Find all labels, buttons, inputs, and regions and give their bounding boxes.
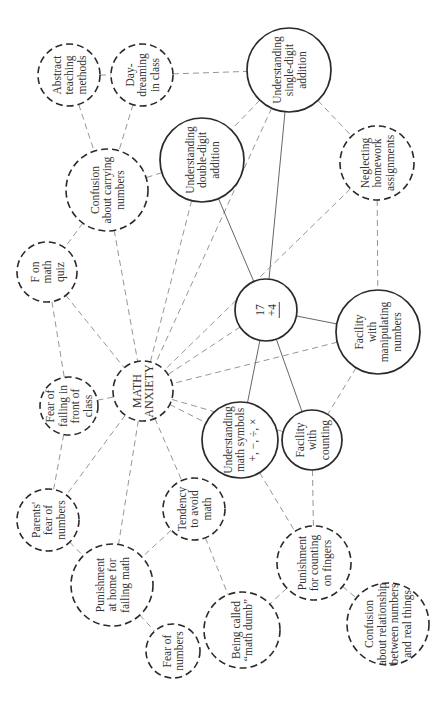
- edge-double-carrying: [146, 173, 162, 178]
- edge-failclass-anxiety: [97, 397, 113, 400]
- node-label-line: front of: [69, 388, 81, 423]
- node-label-fearnum: Fear ofnumbers: [161, 631, 186, 671]
- edge-punishfingers-realthings: [343, 587, 357, 598]
- node-label-line: addition: [296, 51, 308, 89]
- node-fquiz: F onmathquiz: [17, 242, 77, 302]
- edge-daydream-single: [173, 71, 247, 74]
- node-label-line: homework: [371, 138, 383, 187]
- node-label-line: on fingers: [321, 539, 334, 586]
- node-label-line: ANXIETY: [142, 364, 156, 418]
- node-manip: Facilitywithmanipulatingnumbers: [336, 290, 420, 374]
- node-parents: Parents'fear ofnumbers: [17, 489, 79, 551]
- node-label-line: math: [41, 260, 53, 283]
- node-label-line: Day-: [124, 63, 137, 86]
- edge-symbols-punishfingers: [260, 473, 295, 532]
- node-label-line: failing math: [119, 557, 132, 613]
- node-label-homework: Neglectinghomeworkassignments: [359, 134, 397, 191]
- edge-manip-counting: [328, 368, 357, 415]
- node-label-line: numbers: [173, 631, 185, 671]
- edge-carrying-anxiety: [114, 230, 138, 361]
- node-label-line: at home for: [106, 558, 118, 611]
- edge-single-double: [231, 100, 260, 130]
- node-label-line: methods: [76, 55, 88, 94]
- node-label-line: Punishment: [94, 557, 106, 612]
- node-label-line: for counting: [308, 534, 321, 591]
- edge-failclass-parents: [54, 435, 64, 490]
- node-label-line: addition: [209, 141, 221, 179]
- node-label-line: between numbers: [388, 583, 400, 664]
- edge-anxiety-avoid: [155, 419, 182, 481]
- node-label-line: Abstract: [51, 55, 63, 95]
- edge-fquiz-anxiety: [66, 295, 124, 367]
- node-label-line: Understanding: [184, 126, 197, 194]
- node-label-line: math symbols: [234, 407, 247, 472]
- edge-sum-manip: [296, 316, 336, 324]
- node-daydream: Day-dreamingin class: [111, 44, 173, 106]
- node-label-line: Understanding: [271, 36, 284, 104]
- node-label-line: Neglecting: [359, 138, 372, 189]
- edge-manip-anxiety: [172, 342, 337, 384]
- edge-double-anxiety: [150, 201, 191, 362]
- node-avoid: Tendencyto avoidmath: [163, 478, 225, 540]
- node-sum: 17+4: [235, 279, 297, 341]
- node-label-line: quiz: [54, 262, 67, 282]
- node-label-line: numbers: [114, 170, 126, 210]
- node-label-line: Facility: [353, 314, 366, 349]
- node-failclass: Fear offailing infront ofclass: [40, 377, 98, 435]
- edge-sum-counting: [276, 339, 302, 412]
- node-label-line: +, −, ÷, ×: [247, 418, 260, 461]
- node-label-sum: 17+4: [254, 304, 279, 316]
- node-label-line: failing in: [57, 385, 70, 427]
- edge-sum-symbols: [248, 340, 260, 402]
- node-label-line: F on: [29, 261, 41, 282]
- edge-abstract-carrying: [79, 104, 94, 151]
- node-counting: Facilitywithcounting: [282, 410, 342, 470]
- node-fearnum: Fear ofnumbers: [146, 624, 200, 678]
- node-punishfingers: Punishmentfor countingon fingers: [277, 526, 351, 600]
- node-label-abstract: Abstractteachingmethods: [51, 55, 88, 95]
- node-label-line: assignments: [384, 134, 397, 191]
- edge-fquiz-failclass: [52, 302, 64, 378]
- node-double: Understandingdouble-digitaddition: [160, 118, 244, 202]
- node-label-line: with: [306, 430, 318, 451]
- edge-anxiety-punishhome: [119, 421, 139, 545]
- node-label-line: manipulating: [378, 301, 391, 362]
- node-label-line: about relationship: [376, 582, 389, 665]
- node-label-line: Tendency: [176, 486, 189, 531]
- node-label-line: to avoid: [188, 490, 200, 528]
- nodes-layer: AbstractteachingmethodsDay-dreamingin cl…: [17, 28, 429, 678]
- edge-carrying-fquiz: [65, 223, 83, 248]
- node-label-line: numbers: [55, 500, 67, 540]
- math-anxiety-concept-map: AbstractteachingmethodsDay-dreamingin cl…: [0, 0, 439, 702]
- node-dumb: Being called“math dumb”: [204, 592, 280, 668]
- node-label-line: +4: [266, 304, 278, 316]
- node-label-line: Parents': [30, 502, 42, 538]
- edge-parents-punishhome: [70, 542, 84, 556]
- node-carrying: Confusionabout carryingnumbers: [66, 149, 148, 231]
- node-single: Understandingsingle-digitaddition: [247, 28, 331, 112]
- node-label-line: Understanding: [222, 406, 235, 474]
- node-label-line: Being called: [230, 601, 243, 659]
- node-label-parents: Parents'fear ofnumbers: [30, 500, 67, 540]
- edge-daydream-carrying: [119, 105, 133, 151]
- edge-single-sum: [269, 112, 285, 279]
- node-label-punishfingers: Punishmentfor countingon fingers: [296, 534, 334, 591]
- node-label-line: fear of: [42, 505, 54, 535]
- node-label-line: Punishment: [296, 535, 308, 590]
- node-realthings: Confusionabout relationshipbetween numbe…: [347, 582, 429, 665]
- node-label-line: single-digit: [283, 43, 296, 96]
- node-label-line: in class: [149, 57, 161, 92]
- node-label-line: teaching: [63, 55, 76, 94]
- node-label-line: Fear of: [44, 389, 56, 422]
- edge-punishfingers-dumb: [270, 588, 287, 604]
- node-punishhome: Punishmentat home forfailing math: [71, 544, 153, 626]
- node-label-line: double-digit: [196, 131, 209, 188]
- edge-avoid-dumb: [205, 538, 228, 595]
- node-label-line: and real things: [401, 590, 414, 658]
- node-label-dumb: Being called“math dumb”: [230, 599, 255, 661]
- node-label-line: Fear of: [161, 634, 173, 667]
- node-label-line: 17: [254, 304, 266, 316]
- edge-counting-punishfingers: [313, 470, 314, 526]
- node-label-line: counting: [319, 420, 332, 460]
- edge-anxiety-symbols: [170, 405, 206, 423]
